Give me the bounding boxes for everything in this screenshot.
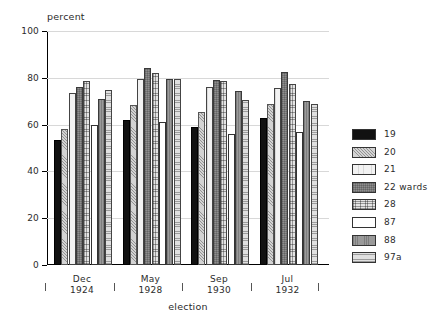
bar bbox=[206, 87, 213, 265]
bar bbox=[54, 140, 61, 265]
x-axis-separator bbox=[318, 283, 319, 291]
bar bbox=[152, 73, 159, 265]
bar bbox=[83, 81, 90, 265]
bar bbox=[220, 81, 227, 265]
bar bbox=[166, 79, 173, 265]
legend-swatch bbox=[352, 182, 376, 193]
x-axis-category-line: 1932 bbox=[253, 285, 323, 296]
bar bbox=[69, 93, 76, 265]
legend-item[interactable]: 88 bbox=[352, 232, 444, 250]
bar bbox=[61, 129, 68, 265]
bar bbox=[137, 79, 144, 265]
bar bbox=[296, 132, 303, 265]
x-axis-category-line: 1928 bbox=[116, 285, 186, 296]
bar bbox=[213, 80, 220, 265]
bar bbox=[311, 104, 318, 265]
legend-swatch bbox=[352, 235, 376, 246]
bar bbox=[91, 125, 98, 265]
y-tick-label: 40 bbox=[27, 167, 39, 176]
bar-group bbox=[191, 31, 249, 265]
legend-swatch bbox=[352, 129, 376, 140]
legend-swatch bbox=[352, 199, 376, 210]
x-axis-category-line: May bbox=[116, 274, 186, 285]
y-tick-label: 0 bbox=[33, 261, 39, 270]
bar bbox=[267, 104, 274, 265]
x-axis-category-line: Dec bbox=[47, 274, 117, 285]
legend-item[interactable]: 28 bbox=[352, 196, 444, 214]
bar bbox=[274, 88, 281, 265]
legend-swatch bbox=[352, 252, 376, 263]
x-axis-category-line: 1924 bbox=[47, 285, 117, 296]
y-axis-title: percent bbox=[47, 11, 85, 22]
y-tick-label: 60 bbox=[27, 121, 39, 130]
legend-item[interactable]: 20 bbox=[352, 144, 444, 162]
bar-group bbox=[123, 31, 181, 265]
bar bbox=[159, 122, 166, 265]
legend-swatch bbox=[352, 147, 376, 158]
y-tick-label: 100 bbox=[21, 27, 39, 36]
legend-label: 28 bbox=[384, 199, 396, 210]
bar bbox=[198, 112, 205, 265]
bar bbox=[242, 100, 249, 265]
legend-item[interactable]: 22 wards bbox=[352, 179, 444, 197]
bar bbox=[76, 87, 83, 265]
y-tick-mark bbox=[42, 171, 47, 172]
legend-label: 97a bbox=[384, 252, 402, 263]
bar bbox=[98, 99, 105, 265]
x-axis-category-line: Jul bbox=[253, 274, 323, 285]
y-tick-label: 80 bbox=[27, 74, 39, 83]
bar bbox=[191, 127, 198, 265]
legend-item[interactable]: 21 bbox=[352, 161, 444, 179]
legend-item[interactable]: 87 bbox=[352, 214, 444, 232]
chart-legend: 19202122 wards28878897a bbox=[352, 126, 444, 267]
bar-group bbox=[54, 31, 112, 265]
x-axis-category-label: May1928 bbox=[116, 274, 186, 296]
bar-chart: percent 020406080100 Dec1924May1928Sep19… bbox=[0, 0, 445, 323]
bar bbox=[144, 68, 151, 265]
legend-label: 22 wards bbox=[384, 182, 428, 193]
bar bbox=[260, 118, 267, 265]
bar bbox=[130, 105, 137, 265]
y-tick-mark bbox=[42, 125, 47, 126]
bar bbox=[303, 101, 310, 265]
y-tick-label: 20 bbox=[27, 214, 39, 223]
x-axis-category-line: 1930 bbox=[184, 285, 254, 296]
bar bbox=[235, 91, 242, 265]
legend-label: 20 bbox=[384, 147, 396, 158]
x-axis-category-label: Dec1924 bbox=[47, 274, 117, 296]
bar bbox=[281, 72, 288, 265]
legend-label: 21 bbox=[384, 164, 396, 175]
legend-label: 19 bbox=[384, 129, 396, 140]
x-axis-separator bbox=[114, 283, 115, 291]
y-tick-mark bbox=[42, 265, 47, 266]
x-axis-separator bbox=[251, 283, 252, 291]
bar bbox=[174, 79, 181, 265]
legend-item[interactable]: 19 bbox=[352, 126, 444, 144]
x-axis-separator bbox=[45, 283, 46, 291]
bar-group bbox=[260, 31, 318, 265]
bar bbox=[105, 90, 112, 266]
plot-area: 020406080100 bbox=[47, 31, 329, 265]
x-axis-category-label: Sep1930 bbox=[184, 274, 254, 296]
x-axis-category-label: Jul1932 bbox=[253, 274, 323, 296]
y-tick-mark bbox=[42, 218, 47, 219]
x-axis-category-line: Sep bbox=[184, 274, 254, 285]
legend-item[interactable]: 97a bbox=[352, 249, 444, 267]
legend-label: 88 bbox=[384, 235, 396, 246]
bar bbox=[123, 120, 130, 265]
legend-swatch bbox=[352, 164, 376, 175]
legend-label: 87 bbox=[384, 217, 396, 228]
legend-swatch bbox=[352, 217, 376, 228]
bar bbox=[228, 134, 235, 265]
x-axis-title: election bbox=[0, 301, 376, 312]
y-tick-mark bbox=[42, 78, 47, 79]
bar bbox=[289, 84, 296, 265]
y-tick-mark bbox=[42, 31, 47, 32]
x-axis-separator bbox=[182, 283, 183, 291]
